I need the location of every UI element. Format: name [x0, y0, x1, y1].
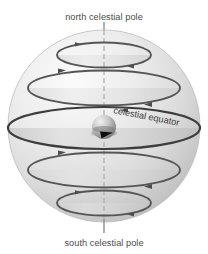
celestial-sphere-svg: north celestial pole south celestial pol… — [0, 0, 208, 254]
celestial-sphere-diagram: north celestial pole south celestial pol… — [0, 0, 208, 254]
north-celestial-pole-label: north celestial pole — [65, 12, 143, 22]
south-celestial-pole-label: south celestial pole — [64, 238, 143, 248]
